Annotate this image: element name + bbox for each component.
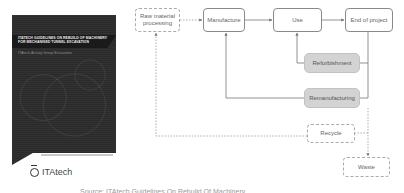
node-recycle: Recycle bbox=[307, 124, 355, 143]
node-raw-material: Raw material processing bbox=[135, 8, 180, 32]
figure-caption: Source: ITAtech Guidelines On Rebuild Of… bbox=[80, 188, 245, 193]
node-refurbishment: Refurbishment bbox=[304, 53, 360, 73]
node-use: Use bbox=[273, 8, 322, 32]
node-waste: Waste bbox=[343, 157, 390, 177]
node-manufacture: Manufacture bbox=[203, 8, 245, 32]
node-remanufacturing: Remanufacturing bbox=[304, 88, 360, 108]
node-end-of-project: End of project bbox=[345, 8, 393, 32]
